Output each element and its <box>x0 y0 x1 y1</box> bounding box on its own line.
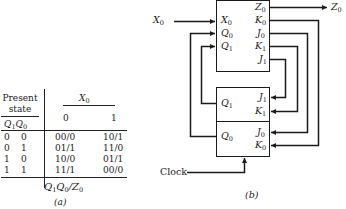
output-z0-label: Z0 <box>331 1 342 14</box>
ff0-output-q0: Q0 <box>221 130 233 143</box>
ff1-input-k1: K1 <box>255 105 266 118</box>
clock-label: Clock <box>160 166 187 177</box>
input-x0-label: X0 <box>153 14 164 27</box>
logic-output-z0: Z0 <box>255 1 266 14</box>
caption-b: (b) <box>245 189 259 200</box>
logic-output-j1: J1 <box>259 53 267 66</box>
ff0-input-j0: J0 <box>257 126 265 139</box>
logic-output-k1: K1 <box>255 40 266 53</box>
logic-input-q0: Q0 <box>221 27 233 40</box>
logic-output-j0: J0 <box>257 27 265 40</box>
logic-output-k0: K0 <box>255 14 266 27</box>
ff1-input-j1: J1 <box>259 91 267 104</box>
logic-input-x0: X0 <box>221 14 232 27</box>
logic-input-q1: Q1 <box>221 40 233 53</box>
ff0-input-k0: K0 <box>255 139 266 152</box>
circuit-wiring <box>0 0 346 209</box>
ff1-output-q1: Q1 <box>221 97 233 110</box>
